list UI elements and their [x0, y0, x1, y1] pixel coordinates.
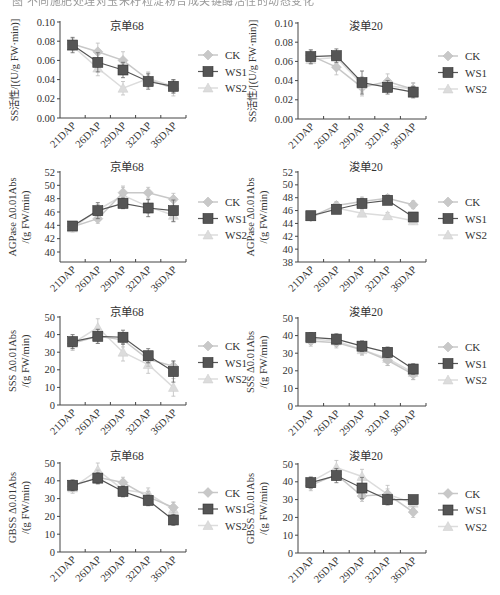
chart-title: 浚单20	[349, 449, 383, 462]
legend-label: WS2	[465, 83, 487, 95]
legend-label: WS1	[225, 66, 247, 78]
ws1-square-marker-icon	[143, 77, 153, 87]
ws1-square-marker-icon	[443, 505, 453, 515]
ws1-square-marker-icon	[93, 57, 103, 67]
x-tick-label: 36DAP	[149, 264, 179, 294]
y-tick-label: 0.02	[275, 94, 293, 105]
series-ws1	[306, 49, 418, 98]
y-tick-label: 40	[283, 476, 294, 487]
x-tick-label: 21DAP	[48, 264, 78, 294]
x-tick-label: 32DAP	[124, 554, 154, 584]
legend-label: WS1	[465, 358, 487, 370]
legend-item-ck: CK	[198, 340, 240, 352]
legend-item-ck: CK	[198, 196, 240, 208]
y-tick-label: 44	[45, 220, 56, 231]
chart-panel-4: 384042444648505221DAP26DAP29DAP32DAP36DA…	[245, 160, 487, 294]
ws1-square-marker-icon	[168, 515, 178, 525]
x-tick-label: 36DAP	[149, 554, 179, 584]
x-tick-label: 26DAP	[73, 264, 103, 294]
ws1-square-marker-icon	[357, 199, 367, 209]
y-tick-label: 0	[50, 547, 55, 558]
x-tick-label: 21DAP	[48, 554, 78, 584]
y-axis-label: /(g FW/min)	[258, 482, 270, 535]
y-tick-label: 50	[45, 312, 56, 323]
legend-label: WS2	[465, 374, 487, 386]
ck-diamond-marker-icon	[443, 197, 453, 207]
y-tick-label: 42	[283, 231, 294, 242]
y-tick-label: 0.04	[275, 75, 294, 86]
y-axis-label: AGPase Δ0.01Abs	[7, 177, 18, 256]
y-tick-label: 10	[45, 529, 56, 540]
y-tick-label: 30	[283, 348, 294, 359]
y-tick-label: 40	[45, 247, 56, 258]
x-tick-label: 26DAP	[312, 555, 342, 585]
legend-item-ws1: WS1	[438, 213, 487, 225]
legend-item-ws2: WS2	[198, 82, 247, 94]
legend-item-ws2: WS2	[198, 229, 247, 241]
legend-label: WS1	[465, 504, 487, 516]
legend-item-ws2: WS2	[438, 521, 487, 533]
legend-label: CK	[225, 340, 240, 352]
x-tick-label: 36DAP	[149, 120, 179, 150]
x-tick-label: 29DAP	[98, 407, 128, 437]
y-tick-label: 0.00	[275, 114, 293, 125]
x-tick-label: 21DAP	[48, 120, 78, 150]
ws1-square-marker-icon	[408, 212, 418, 222]
legend-item-ws1: WS1	[198, 503, 247, 515]
y-axis-label: SSS Δ0.01Abs	[245, 331, 256, 393]
legend-item-ws1: WS1	[198, 357, 247, 369]
ws1-square-marker-icon	[331, 471, 341, 481]
legend-item-ws2: WS2	[198, 520, 247, 532]
y-axis-label: AGPase Δ0.01Abs	[245, 177, 256, 256]
legend-item-ws2: WS2	[438, 374, 487, 386]
chart-panel-6: 0102030405021DAP26DAP29DAP32DAP36DAP浚单20…	[245, 305, 487, 438]
legend-label: CK	[465, 50, 480, 62]
ws1-square-marker-icon	[143, 351, 153, 361]
x-tick-label: 32DAP	[363, 555, 393, 585]
x-tick-label: 29DAP	[98, 120, 128, 150]
y-tick-label: 0.10	[37, 17, 55, 28]
ws1-square-marker-icon	[93, 473, 103, 483]
y-tick-label: 38	[283, 257, 294, 268]
y-tick-label: 30	[45, 493, 56, 504]
x-tick-label: 32DAP	[124, 407, 154, 437]
x-tick-label: 21DAP	[286, 121, 316, 151]
ws1-square-marker-icon	[306, 478, 316, 488]
legend-label: WS1	[465, 67, 487, 79]
ws1-square-marker-icon	[118, 332, 128, 342]
legend-label: CK	[465, 488, 480, 500]
legend-item-ck: CK	[438, 50, 480, 62]
chart-panel-8: 0102030405021DAP26DAP29DAP32DAP36DAP浚单20…	[245, 449, 487, 585]
x-tick-label: 26DAP	[312, 264, 342, 294]
chart-title: 浚单20	[349, 19, 383, 32]
legend-item-ck: CK	[198, 49, 240, 61]
ws1-square-marker-icon	[408, 87, 418, 97]
ck-diamond-marker-icon	[443, 51, 453, 61]
ck-diamond-marker-icon	[203, 50, 213, 60]
y-tick-label: 0.10	[275, 18, 293, 29]
ws1-square-marker-icon	[331, 204, 341, 214]
ws1-square-marker-icon	[143, 203, 153, 213]
legend-label: WS2	[465, 229, 487, 241]
y-tick-label: 0	[288, 401, 293, 412]
ws1-square-marker-icon	[306, 211, 316, 221]
ws1-square-marker-icon	[408, 364, 418, 374]
y-tick-label: 10	[283, 530, 294, 541]
legend-label: CK	[465, 196, 480, 208]
ck-diamond-marker-icon	[408, 200, 418, 210]
ws1-square-marker-icon	[143, 495, 153, 505]
y-axis-label: SSS Δ0.01Abs	[7, 330, 18, 392]
y-tick-label: 0.00	[37, 113, 55, 124]
legend-item-ws1: WS1	[198, 213, 247, 225]
legend-label: WS1	[225, 503, 247, 515]
legend-label: CK	[225, 49, 240, 61]
series-ws1	[68, 198, 179, 231]
x-tick-label: 36DAP	[389, 121, 419, 151]
ws1-square-marker-icon	[443, 359, 453, 369]
y-tick-label: 50	[283, 313, 294, 324]
legend-label: WS2	[225, 82, 247, 94]
ck-diamond-marker-icon	[203, 488, 213, 498]
legend-label: WS1	[225, 213, 247, 225]
chart-panel-3: 4042444648505221DAP26DAP29DAP32DAP36DAP京…	[7, 160, 247, 294]
legend-label: WS1	[225, 357, 247, 369]
